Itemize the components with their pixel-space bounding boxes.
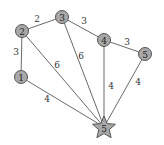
node-1: 1 bbox=[15, 71, 28, 84]
edge-3-S bbox=[62, 17, 104, 127]
edge-weight-label: 3 bbox=[124, 37, 130, 47]
edge-1-S bbox=[21, 77, 104, 127]
node-2: 2 bbox=[16, 25, 29, 38]
edge-weight-label: 6 bbox=[54, 60, 60, 70]
edge-weight-label: 3 bbox=[81, 16, 87, 26]
edge-weight-label: 6 bbox=[78, 51, 84, 61]
edge-2-S bbox=[22, 31, 104, 127]
edge-weight-label: 4 bbox=[108, 81, 114, 91]
nodes: 123455 bbox=[15, 11, 152, 138]
edge-weight-label: 4 bbox=[135, 77, 141, 87]
node-label: 5 bbox=[142, 50, 148, 60]
graph-diagram: 236633444 123455 bbox=[0, 0, 164, 145]
node-label: 2 bbox=[19, 27, 25, 37]
node-3: 3 bbox=[56, 11, 69, 24]
node-label: 3 bbox=[59, 13, 65, 23]
node-label: 1 bbox=[18, 73, 24, 83]
node-label: 5 bbox=[101, 124, 107, 134]
node-S: 5 bbox=[93, 116, 116, 138]
edges bbox=[21, 17, 145, 127]
edge-weight-label: 4 bbox=[44, 94, 50, 104]
node-4: 4 bbox=[98, 34, 111, 47]
node-5: 5 bbox=[139, 48, 152, 61]
edge-weight-label: 3 bbox=[13, 47, 19, 57]
edge-weight-label: 2 bbox=[34, 14, 40, 24]
node-label: 4 bbox=[101, 36, 107, 46]
